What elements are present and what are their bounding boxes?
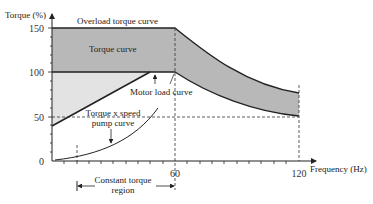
y-tick-0: 0 (39, 156, 44, 167)
y-axis-title: Torque (%) (5, 10, 46, 20)
y-tick-100: 100 (29, 67, 44, 78)
region-label-1: Constant torque (94, 175, 151, 185)
x-tick-120: 120 (292, 168, 307, 179)
motor-load-pointer (170, 74, 174, 84)
x-tick-60: 60 (170, 168, 180, 179)
y-tick-50: 50 (34, 112, 44, 123)
torque-frequency-chart: 150 100 50 0 60 120 Torque (%) Frequency… (0, 0, 373, 204)
x-axis-title: Frequency (Hz) (310, 164, 367, 174)
overload-label: Overload torque curve (77, 16, 158, 26)
y-tick-150: 150 (29, 23, 44, 34)
y-ticks (48, 28, 52, 152)
torque-curve-label: Torque curve (89, 44, 137, 54)
pump-curve-label-2: pump curve (92, 118, 135, 128)
motor-load-label: Motor load curve (130, 87, 192, 97)
pump-curve-label-1: Torque x speed (86, 108, 141, 118)
region-label-2: region (112, 185, 135, 195)
